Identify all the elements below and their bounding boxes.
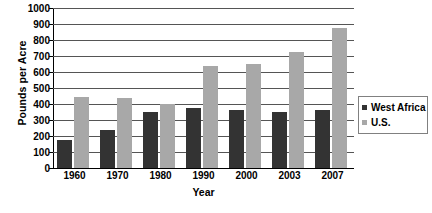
bar-u-s-2000 <box>246 64 261 168</box>
bar-group-1990 <box>182 8 225 168</box>
bar-u-s-1980 <box>160 104 175 168</box>
y-axis-tick-labels: 10009008007006005004003002001000 <box>14 8 50 168</box>
legend-item-u-s[interactable]: U.S. <box>362 115 423 130</box>
bar-u-s-1990 <box>203 66 218 168</box>
x-tick-label-2007: 2007 <box>311 170 355 181</box>
bar-west-africa-1960 <box>57 140 72 168</box>
x-axis-tick-labels: 1960197019801990200020032007 <box>53 170 354 184</box>
bar-group-1970 <box>96 8 139 168</box>
x-axis-title: Year <box>53 186 354 198</box>
x-tick-label-1980: 1980 <box>139 170 183 181</box>
legend-swatch-u-s <box>362 120 367 125</box>
bar-west-africa-2003 <box>272 112 287 168</box>
bar-west-africa-1970 <box>100 130 115 168</box>
legend-label-west-africa: West Africa <box>371 103 425 113</box>
y-tick-label-200: 200 <box>14 131 50 142</box>
y-tick-label-600: 600 <box>14 67 50 78</box>
x-tick-label-2003: 2003 <box>268 170 312 181</box>
gridline-0 <box>53 168 354 169</box>
bar-groups <box>53 8 354 168</box>
y-tick-label-300: 300 <box>14 115 50 126</box>
bar-west-africa-1980 <box>143 112 158 168</box>
bar-u-s-2007 <box>332 28 347 168</box>
y-tick-label-800: 800 <box>14 35 50 46</box>
x-tick-label-1970: 1970 <box>96 170 140 181</box>
y-tick-label-500: 500 <box>14 83 50 94</box>
bar-west-africa-1990 <box>186 108 201 168</box>
bar-group-2007 <box>311 8 354 168</box>
bar-group-1980 <box>139 8 182 168</box>
bar-u-s-2003 <box>289 52 304 168</box>
y-tick-label-700: 700 <box>14 51 50 62</box>
bar-group-2003 <box>268 8 311 168</box>
legend-swatch-west-africa <box>362 105 367 110</box>
bar-group-2000 <box>225 8 268 168</box>
y-tick-0 <box>49 168 53 169</box>
bar-west-africa-2000 <box>229 110 244 168</box>
y-tick-label-0: 0 <box>14 163 50 174</box>
bar-chart: Pounds per Acre 100090080070060050040030… <box>0 0 432 213</box>
bar-u-s-1970 <box>117 98 132 168</box>
bar-u-s-1960 <box>74 97 89 168</box>
y-tick-label-100: 100 <box>14 147 50 158</box>
bar-group-1960 <box>53 8 96 168</box>
y-tick-label-400: 400 <box>14 99 50 110</box>
y-tick-label-900: 900 <box>14 19 50 30</box>
bar-west-africa-2007 <box>315 110 330 168</box>
legend: West AfricaU.S. <box>358 96 428 134</box>
x-tick-label-1960: 1960 <box>53 170 97 181</box>
plot-area <box>53 8 354 168</box>
x-tick-label-1990: 1990 <box>182 170 226 181</box>
x-tick-label-2000: 2000 <box>225 170 269 181</box>
legend-label-u-s: U.S. <box>371 118 390 128</box>
y-tick-label-1000: 1000 <box>14 3 50 14</box>
legend-item-west-africa[interactable]: West Africa <box>362 100 423 115</box>
